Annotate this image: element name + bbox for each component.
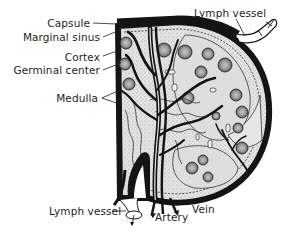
- label-cortex: Cortex: [65, 51, 100, 63]
- label-vein: Vein: [192, 203, 215, 215]
- label-artery: Artery: [155, 211, 188, 223]
- label-marginal-sinus: Marginal sinus: [23, 31, 100, 43]
- label-lymph-vessel-efferent: Lymph vessel: [49, 205, 121, 217]
- label-lymph-vessel-afferent: Lymph vessel: [194, 7, 266, 19]
- label-medulla: Medulla: [56, 92, 98, 104]
- label-capsule: Capsule: [47, 17, 90, 29]
- label-germinal-center: Germinal center: [14, 64, 101, 76]
